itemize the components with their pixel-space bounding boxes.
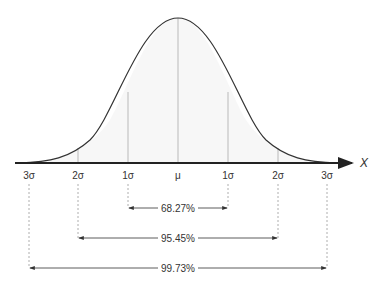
tick-label: 1σ xyxy=(222,170,235,181)
interval-3sigma: 99.73% xyxy=(30,263,326,274)
interval-1sigma: 68.27% xyxy=(129,203,227,214)
tick-label: 2σ xyxy=(72,170,85,181)
tick-label: 2σ xyxy=(272,170,285,181)
interval-label: 95.45% xyxy=(161,233,195,244)
tick-labels: 3σ 2σ 1σ μ 1σ 2σ 3σ xyxy=(23,170,334,181)
interval-2sigma: 95.45% xyxy=(79,233,277,244)
normal-distribution-diagram: X 3σ 2σ 1σ μ 1σ 2σ 3σ 68.27% 95.45% 99.7… xyxy=(0,0,378,284)
axis-label-x: X xyxy=(359,156,369,170)
tick-label: μ xyxy=(175,170,181,181)
tick-label: 3σ xyxy=(321,170,334,181)
tick-label: 1σ xyxy=(122,170,135,181)
dashed-drop-lines xyxy=(29,184,327,268)
interval-label: 99.73% xyxy=(161,263,195,274)
tick-label: 3σ xyxy=(23,170,36,181)
interval-label: 68.27% xyxy=(161,203,195,214)
